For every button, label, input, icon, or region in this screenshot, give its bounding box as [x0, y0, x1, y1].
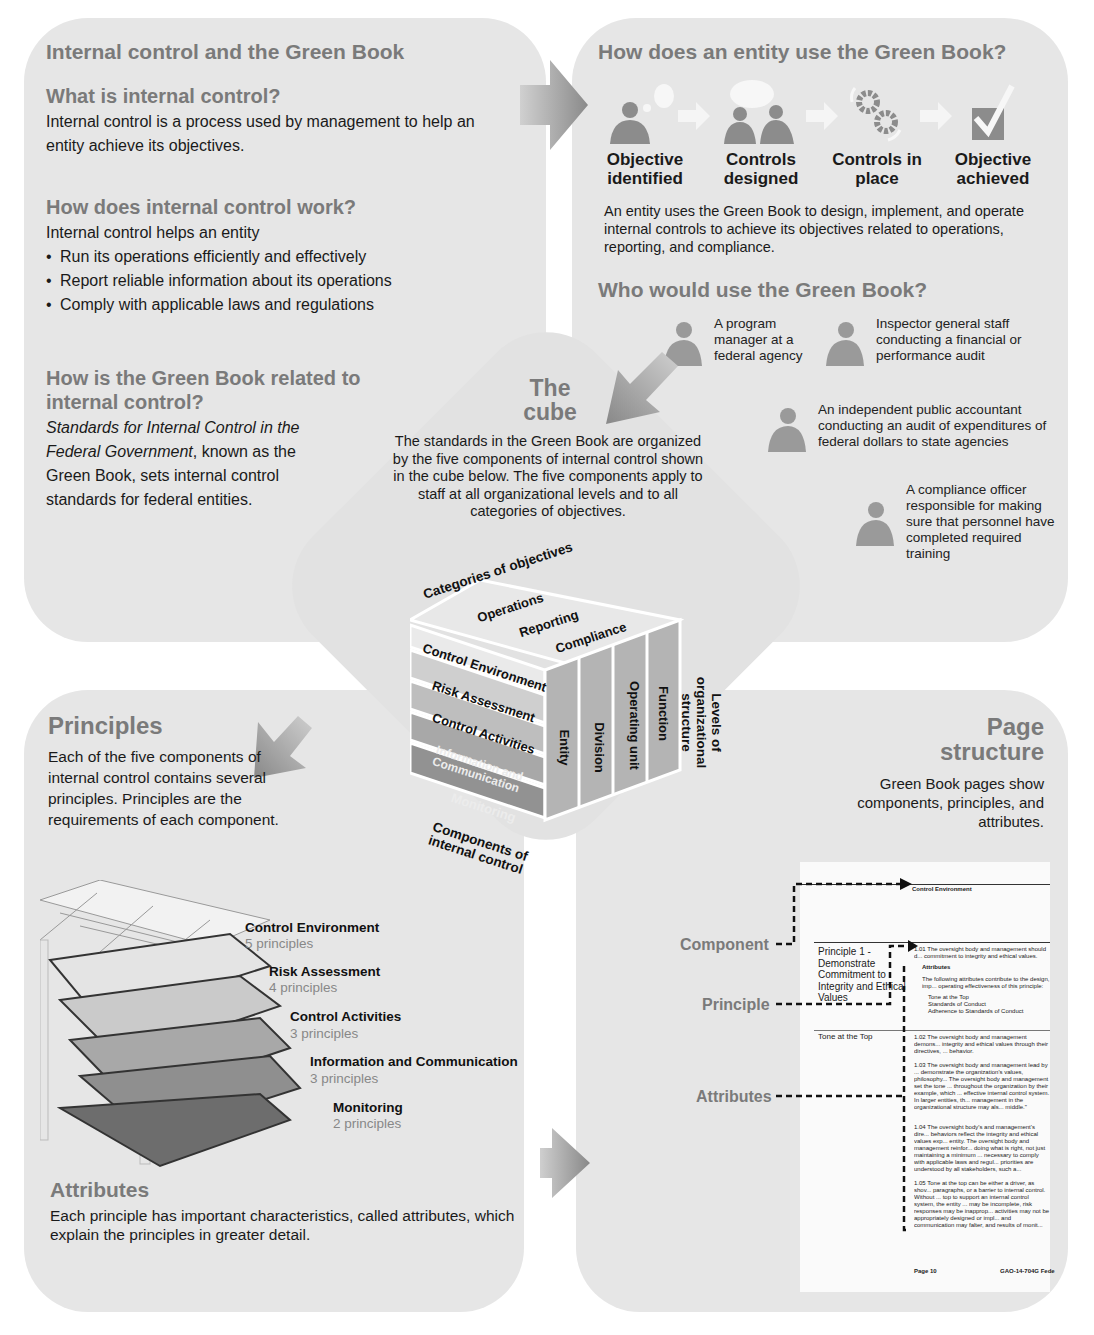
person-icon [854, 498, 894, 546]
person-icon [824, 318, 864, 366]
callout-component: Component [680, 936, 769, 954]
layer-count: 5 principles [245, 936, 313, 951]
attributes-heading: Attributes [50, 1178, 149, 1202]
what-heading: What is internal control? [46, 85, 280, 108]
layer-control-environment: Control Environment [245, 920, 379, 935]
user-inspector-general: Inspector general staff conducting a fin… [876, 316, 1026, 364]
entity-use-title: How does an entity use the Green Book? [598, 40, 1006, 64]
layer-count: 4 principles [269, 980, 337, 995]
levels-label: Levels of organizational structure [679, 658, 724, 788]
how-bullets: Run its operations efficiently and effec… [46, 245, 392, 317]
layer-count: 3 principles [290, 1026, 358, 1041]
level-entity: Entity [557, 729, 572, 765]
how-heading: How does internal control work? [46, 196, 356, 219]
cube-title: The cube [500, 376, 600, 424]
arrow-down-left-icon [600, 352, 680, 432]
related-heading: How is the Green Book related to interna… [46, 366, 406, 414]
layer-count: 3 principles [310, 1071, 378, 1086]
step-controls-in-place: Controls in place [822, 150, 932, 188]
who-heading: Who would use the Green Book? [598, 278, 927, 302]
two-people-speech-icon [724, 80, 794, 144]
person-lightbulb-icon [610, 84, 674, 144]
callout-lines [770, 870, 930, 1240]
user-public-accountant: An independent public accountant conduct… [818, 402, 1058, 450]
layer-monitoring: Monitoring [333, 1100, 403, 1115]
principles-body: Each of the five components of internal … [48, 746, 298, 830]
user-program-manager: A program manager at a federal agency [714, 316, 814, 364]
step-controls-designed: Controls designed [706, 150, 816, 188]
callout-attributes: Attributes [696, 1088, 772, 1106]
step-objective-identified: Objective identified [590, 150, 700, 188]
sample-footer-right: GAO-14-704G Fede [1000, 1268, 1055, 1275]
process-icons [600, 78, 1030, 150]
arrow-right-icon [540, 1128, 592, 1198]
page-structure-title: Page structure [880, 714, 1044, 764]
step-objective-achieved: Objective achieved [938, 150, 1048, 188]
entity-use-body: An entity uses the Green Book to design,… [604, 202, 1024, 256]
arrow-right-icon [520, 60, 590, 150]
bullet-item: Report reliable information about its op… [46, 269, 392, 293]
layer-count: 2 principles [333, 1116, 401, 1131]
related-body: Standards for Internal Control in the Fe… [46, 416, 336, 512]
level-function: Function [656, 686, 671, 741]
checkbox-icon [972, 86, 1012, 140]
layer-info-comm: Information and Communication [310, 1054, 518, 1069]
page-structure-body: Green Book pages show components, princi… [834, 774, 1044, 831]
user-compliance-officer: A compliance officer responsible for mak… [906, 482, 1056, 562]
what-body: Internal control is a process used by ma… [46, 110, 486, 158]
cube-body: The standards in the Green Book are orga… [392, 433, 704, 521]
layer-control-activities: Control Activities [290, 1009, 401, 1024]
bullet-item: Run its operations efficiently and effec… [46, 245, 392, 269]
level-operating-unit: Operating unit [627, 681, 642, 770]
principles-heading: Principles [48, 712, 163, 740]
layer-risk-assessment: Risk Assessment [269, 964, 380, 979]
sample-footer-left: Page 10 [914, 1268, 937, 1275]
gears-icon [851, 88, 900, 140]
how-intro: Internal control helps an entity [46, 221, 259, 245]
section-title: Internal control and the Green Book [46, 40, 404, 64]
bullet-item: Comply with applicable laws and regulati… [46, 293, 392, 317]
attributes-body: Each principle has important characteris… [50, 1206, 520, 1244]
person-icon [766, 404, 806, 452]
callout-principle: Principle [702, 996, 770, 1014]
level-division: Division [592, 722, 607, 773]
